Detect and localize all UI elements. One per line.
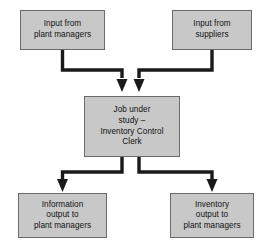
connector-suppliers-to-job: [134, 50, 213, 92]
node-information-output: Information output to plant managers: [18, 193, 107, 238]
node-input-from-suppliers-label: Input from suppliers: [191, 19, 232, 40]
node-job-under-study: Job under study – Inventory Control Cler…: [84, 96, 180, 157]
node-inventory-output: Inventory output to plant managers: [170, 193, 254, 238]
node-input-from-plant-managers-label: Input from plant managers: [32, 19, 93, 40]
node-input-from-plant-managers: Input from plant managers: [20, 10, 105, 50]
connector-plant-managers-to-job: [63, 50, 128, 92]
node-inventory-output-label: Inventory output to plant managers: [181, 200, 242, 232]
flowchart-diagram: Input from plant managers Input from sup…: [0, 0, 262, 244]
node-input-from-suppliers: Input from suppliers: [172, 10, 252, 50]
node-information-output-label: Information output to plant managers: [32, 200, 93, 232]
node-job-under-study-label: Job under study – Inventory Control Cler…: [98, 105, 165, 147]
connector-job-to-information-output: [57, 157, 122, 192]
connector-job-to-inventory-output: [139, 157, 218, 192]
